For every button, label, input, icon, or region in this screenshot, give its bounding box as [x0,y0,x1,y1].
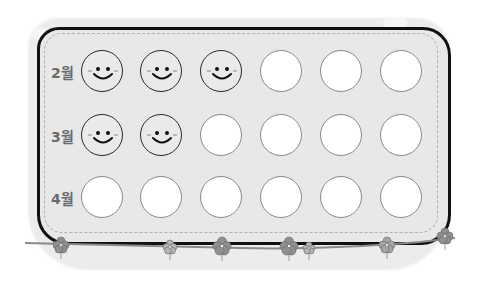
flower-ground-decoration [0,0,479,281]
